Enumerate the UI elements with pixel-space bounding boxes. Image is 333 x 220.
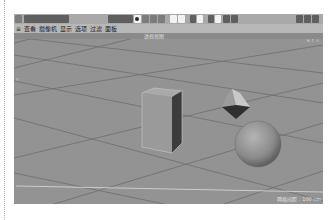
viewport-title: 透视视图 (144, 33, 164, 39)
layout-icon[interactable] (296, 15, 303, 23)
coordinate-icon[interactable] (190, 15, 196, 23)
grid-spacing-status: 网格间距 : 100 cm (277, 195, 321, 202)
axis-label: Y (16, 77, 18, 82)
viewport-menubar: ≡ 查看 摄像机 显示 选项 过滤 面板 (14, 24, 323, 33)
page-margin-guide (4, 0, 5, 220)
viewport-header: 透视视图 (14, 33, 323, 39)
x-axis-icon[interactable] (197, 15, 203, 23)
menu-item-options[interactable]: 选项 (75, 24, 87, 33)
navigation-icons[interactable]: ⊕ ⇕ ⊙ (306, 38, 319, 43)
menu-item-camera[interactable]: 摄像机 (39, 24, 57, 33)
y-axis-icon[interactable] (208, 15, 214, 23)
model-icon[interactable] (231, 15, 238, 23)
menu-item-view[interactable]: 查看 (24, 24, 36, 33)
panel-icon[interactable] (312, 15, 319, 23)
render-settings-icon[interactable] (178, 15, 185, 23)
cube-object[interactable] (142, 88, 182, 153)
viewport-scene (14, 33, 323, 204)
menu-item-display[interactable]: 显示 (60, 24, 72, 33)
live-select-icon[interactable] (134, 15, 141, 23)
object-mode-icon[interactable] (223, 15, 230, 23)
sphere-object[interactable] (235, 121, 281, 167)
undo-redo-group[interactable] (24, 15, 69, 23)
pen-icon[interactable] (150, 15, 157, 23)
cube-icon[interactable] (158, 15, 165, 23)
perspective-viewport[interactable]: 透视视图 ⊕ ⇕ ⊙ Y 网格间距 : 100 cm (14, 33, 323, 204)
menu-item-panel[interactable]: 面板 (105, 24, 117, 33)
box-icon[interactable] (15, 15, 22, 23)
cinema4d-window: ≡ 查看 摄像机 显示 选项 过滤 面板 (14, 14, 323, 204)
z-axis-icon[interactable] (215, 15, 221, 23)
render-icon[interactable] (170, 15, 177, 23)
menu-item-filter[interactable]: 过滤 (90, 24, 102, 33)
move-icon[interactable] (142, 15, 149, 23)
gem-object[interactable] (222, 89, 250, 119)
menu-item-panel-icon[interactable]: ≡ (16, 24, 21, 33)
main-toolbar (14, 14, 323, 24)
tool-group[interactable] (108, 15, 133, 23)
window-icon[interactable] (304, 15, 311, 23)
